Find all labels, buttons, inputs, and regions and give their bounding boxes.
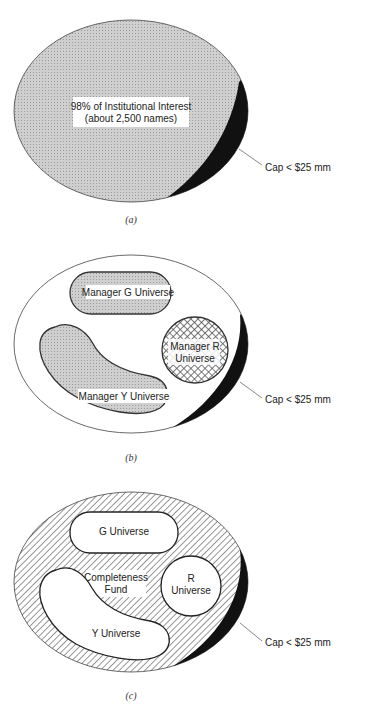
main-label-line2: (about 2,500 names) — [85, 113, 177, 124]
leader-line — [240, 623, 262, 641]
panel-caption: (c) — [125, 690, 137, 702]
completeness-label-line2: Fund — [105, 584, 128, 595]
manager-r-label-line2: Universe — [175, 353, 215, 364]
leader-line — [239, 149, 262, 165]
panel-b: Manager G Universe Manager R Universe Ma… — [14, 255, 331, 464]
g-universe-label: G Universe — [99, 526, 149, 537]
completeness-label-line1: Completeness — [84, 572, 148, 583]
manager-y-label: Manager Y Universe — [79, 391, 170, 402]
r-universe-label-line2: Universe — [171, 585, 211, 596]
main-label-line1: 98% of Institutional Interest — [71, 101, 192, 112]
manager-r-label-line1: Manager R — [170, 341, 219, 352]
cap-label: Cap < $25 mm — [265, 394, 331, 405]
y-universe-label: Y Universe — [92, 628, 141, 639]
panel-a: 98% of Institutional Interest (about 2,5… — [14, 20, 331, 226]
leader-line — [240, 382, 262, 398]
panel-caption: (b) — [125, 452, 137, 464]
manager-g-label: Manager G Universe — [82, 287, 175, 298]
cap-label: Cap < $25 mm — [265, 162, 331, 173]
figure: 98% of Institutional Interest (about 2,5… — [0, 0, 392, 706]
r-universe-label-line1: R — [187, 573, 194, 584]
cap-label: Cap < $25 mm — [265, 637, 331, 648]
panel-c: G Universe R Universe Completeness Fund … — [14, 492, 331, 702]
panel-caption: (a) — [125, 214, 137, 226]
